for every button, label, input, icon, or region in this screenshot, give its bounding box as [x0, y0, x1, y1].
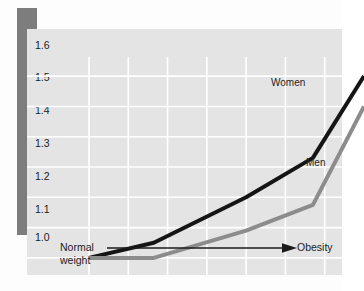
- y-tick-label-4: 1.3: [35, 138, 69, 149]
- arrow-right-icon: [107, 241, 297, 255]
- series-line-men: [89, 106, 364, 258]
- y-tick-label-2: 1.5: [35, 72, 69, 83]
- x-axis-left-label: Normal weight: [60, 241, 94, 266]
- y-tick-label-6: 1.1: [35, 204, 69, 215]
- y-tick-label-5: 1.2: [35, 171, 69, 182]
- series-label-women: Women: [271, 77, 305, 88]
- plot-panel: 1.6 1.5 1.4 1.3 1.2 1.1 1.0 Women Men: [27, 29, 342, 275]
- x-axis-annotation: Normal weight Obesity: [27, 241, 342, 277]
- y-tick-label-1: 1.6: [35, 40, 69, 51]
- x-axis-right-label: Obesity: [297, 241, 333, 253]
- series-label-men: Men: [306, 157, 325, 168]
